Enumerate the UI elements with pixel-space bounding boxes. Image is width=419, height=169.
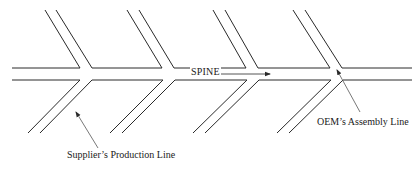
upper-branches [45,10,342,68]
oem-pointer-arrow [337,70,360,112]
lower-branch-2 [110,80,175,133]
upper-branch-1 [45,10,92,68]
upper-branch-4 [293,10,342,68]
oem-assembly-line-label: OEM’s Assembly Line [317,117,409,127]
lower-branch-3 [193,80,259,133]
supplier-pointer-arrow [76,112,98,148]
lower-branch-1 [28,80,92,133]
fishbone-diagram: SPINE Supplier’s Production Line OEM’s A… [0,0,419,169]
lower-branches [28,80,343,133]
upper-branch-3 [213,10,258,68]
spine-label: SPINE [190,67,221,77]
upper-branch-2 [127,10,174,68]
fishbone-lines [0,0,419,169]
supplier-production-line-label: Supplier’s Production Line [67,150,175,160]
